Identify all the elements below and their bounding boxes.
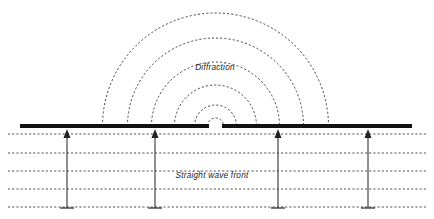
diffraction-arc-5: [128, 38, 304, 126]
incident-arrow-2: [148, 129, 162, 208]
arrow-head-2: [152, 129, 159, 138]
diffraction-arc-1: [208, 118, 224, 126]
arrow-head-1: [64, 129, 71, 138]
incident-arrow-3: [271, 129, 285, 208]
incident-wave-arrows: [60, 129, 375, 208]
incident-arrow-1: [60, 129, 74, 208]
diffraction-label: Diffraction: [195, 63, 235, 72]
diffraction-diagram: Diffraction Straight wave front: [0, 0, 434, 219]
incident-arrow-4: [361, 129, 375, 208]
diffraction-arc-2: [195, 105, 237, 126]
arrow-head-4: [365, 129, 372, 138]
straight-wave-front-label: Straight wave front: [175, 171, 248, 180]
diffraction-arc-3: [175, 85, 257, 126]
arrow-head-3: [275, 129, 282, 138]
diagram-canvas: Diffraction Straight wave front: [0, 0, 434, 219]
